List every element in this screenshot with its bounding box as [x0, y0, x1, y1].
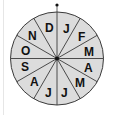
- segment-label-jan: J: [63, 22, 70, 36]
- segment-label-feb: F: [78, 30, 85, 44]
- segment-label-apr: A: [84, 61, 93, 75]
- segment-label-nov: N: [28, 29, 37, 43]
- segment-label-jul: J: [45, 86, 52, 100]
- month-wheel: J F M A M J J A S O N D: [0, 0, 113, 115]
- segment-label-aug: A: [30, 75, 39, 89]
- segment-label-dec: D: [45, 21, 54, 35]
- segment-label-may: M: [75, 76, 85, 90]
- segment-label-oct: O: [21, 44, 30, 58]
- center-hub: [55, 57, 59, 61]
- segment-label-sep: S: [21, 60, 29, 74]
- segment-label-jun: J: [61, 86, 68, 100]
- segment-label-mar: M: [84, 45, 94, 59]
